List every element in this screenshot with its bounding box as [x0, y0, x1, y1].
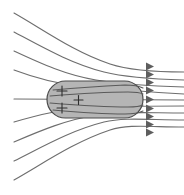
electrostatics-figure — [0, 0, 184, 195]
field-diagram-canvas — [0, 0, 184, 195]
